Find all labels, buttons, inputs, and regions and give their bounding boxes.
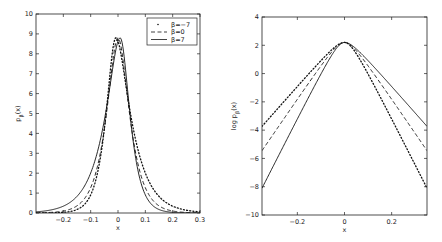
x-tick-label: 0.2 bbox=[167, 216, 177, 224]
x-tick-label: 0.1 bbox=[140, 216, 150, 224]
y-tick-label: 0 bbox=[255, 70, 259, 78]
y-tick-label: 2 bbox=[255, 42, 259, 50]
x-tick-label: 0 bbox=[342, 218, 346, 226]
y-tick-label: 2 bbox=[29, 170, 33, 178]
y-tick-label: 4 bbox=[29, 130, 33, 138]
y-tick-label: 8 bbox=[29, 50, 33, 58]
series-line-solid bbox=[36, 38, 200, 213]
legend-item-label: β=7 bbox=[171, 36, 185, 44]
figure: 012345678910−0.2−0.100.10.20.3xpβ(x)−10−… bbox=[0, 0, 442, 242]
y-tick-label: −6 bbox=[249, 155, 259, 163]
y-axis-label: log pβ(x) bbox=[230, 102, 241, 130]
y-tick-label: 5 bbox=[29, 110, 33, 118]
x-tick-label: 0.2 bbox=[386, 218, 396, 226]
series-line-dotted bbox=[36, 38, 200, 213]
y-tick-label: −8 bbox=[249, 183, 259, 191]
y-tick-label: 10 bbox=[25, 10, 33, 18]
x-axis-label: x bbox=[343, 226, 347, 234]
x-tick-label: −0.1 bbox=[83, 216, 99, 224]
y-tick-label: 0 bbox=[29, 209, 33, 217]
y-tick-label: −2 bbox=[249, 98, 259, 106]
y-axis-label: pβ(x) bbox=[14, 105, 25, 121]
series-line-dashed bbox=[36, 38, 200, 213]
y-tick-label: −4 bbox=[249, 126, 259, 134]
legend: β=−7β=0β=7 bbox=[147, 18, 197, 45]
y-tick-label: −10 bbox=[245, 211, 259, 219]
x-tick-label: 0.3 bbox=[195, 216, 205, 224]
x-axis-label: x bbox=[116, 224, 120, 232]
y-tick-label: 1 bbox=[29, 189, 33, 197]
y-tick-label: 6 bbox=[29, 90, 33, 98]
plot-frame bbox=[262, 17, 427, 215]
x-tick-label: 0 bbox=[116, 216, 120, 224]
series-line-dashed bbox=[262, 42, 427, 150]
x-tick-label: −0.2 bbox=[55, 216, 71, 224]
x-tick-label: −0.2 bbox=[289, 218, 305, 226]
y-tick-label: 7 bbox=[29, 70, 33, 78]
y-tick-label: 9 bbox=[29, 30, 33, 38]
y-tick-label: 4 bbox=[255, 13, 259, 21]
right-plot: −10−8−6−4−2024−0.200.2xlog pβ(x) bbox=[230, 13, 427, 234]
y-tick-label: 3 bbox=[29, 150, 33, 158]
